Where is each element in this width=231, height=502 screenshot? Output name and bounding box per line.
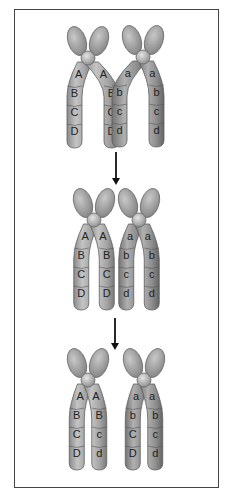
chromosome: abcdabcd <box>115 186 163 310</box>
gene-label: B <box>103 249 110 261</box>
centromere <box>137 373 151 387</box>
gene-label: A <box>76 390 84 402</box>
gene-label: D <box>73 447 81 459</box>
chromosome: ABCDABcd <box>64 346 112 470</box>
chromosome: abcdabcd <box>112 23 167 147</box>
centromere <box>81 373 95 387</box>
gene-label: A <box>92 390 100 402</box>
gene-label: a <box>133 390 140 402</box>
gene-label: A <box>99 230 107 242</box>
gene-label: D <box>103 287 111 299</box>
gene-label: d <box>152 447 158 459</box>
gene-label: C <box>71 106 79 118</box>
gene-label: c <box>153 428 159 440</box>
chromosome: ABCDABCD <box>64 24 119 148</box>
down-arrow-icon <box>112 152 120 185</box>
gene-label: b <box>149 249 155 261</box>
gene-label: C <box>73 428 81 440</box>
chromosome: ABCDABCD <box>70 186 118 310</box>
gene-label: D <box>129 447 137 459</box>
gene-label: A <box>81 230 89 242</box>
gene-label: c <box>124 268 130 280</box>
gene-label: C <box>103 268 111 280</box>
gene-label: d <box>149 287 155 299</box>
gene-label: C <box>77 268 85 280</box>
gene-label: b <box>152 409 158 421</box>
gene-label: B <box>73 409 80 421</box>
gene-label: b <box>130 409 136 421</box>
chromosome: abCDabcd <box>120 346 168 470</box>
gene-label: A <box>100 68 108 80</box>
crossing-over-diagram: ABCDABCDabcdabcdABCDABCDabcdabcdABCDABcd… <box>0 0 231 502</box>
gene-label: a <box>127 230 134 242</box>
gene-label: b <box>153 86 159 98</box>
gene-label: D <box>71 125 79 137</box>
centromere <box>87 213 101 227</box>
gene-label: d <box>116 124 122 136</box>
centromere <box>132 213 146 227</box>
gene-label: c <box>149 268 155 280</box>
gene-label: B <box>96 409 103 421</box>
gene-label: C <box>129 428 137 440</box>
gene-label: a <box>125 67 132 79</box>
gene-label: b <box>116 86 122 98</box>
gene-label: B <box>71 87 78 99</box>
stage-during-crossing-over: ABCDABCDabcdabcd <box>70 186 163 310</box>
gene-label: c <box>97 428 103 440</box>
gene-label: c <box>154 105 160 117</box>
gene-label: a <box>149 390 156 402</box>
gene-label: A <box>75 68 83 80</box>
gene-label: d <box>96 447 102 459</box>
gene-label: d <box>123 287 129 299</box>
gene-label: D <box>77 287 85 299</box>
down-arrow-icon <box>111 318 119 350</box>
gene-label: d <box>153 124 159 136</box>
gene-label: B <box>78 249 85 261</box>
gene-label: a <box>145 230 152 242</box>
gene-label: b <box>123 249 129 261</box>
gene-label: a <box>149 67 156 79</box>
stage-before-crossing-over: ABCDABCDabcdabcd <box>64 23 167 148</box>
stage-after-crossing-over: ABCDABcdabCDabcd <box>64 346 168 470</box>
centromere <box>81 51 95 65</box>
centromere <box>136 50 150 64</box>
gene-label: c <box>117 105 123 117</box>
